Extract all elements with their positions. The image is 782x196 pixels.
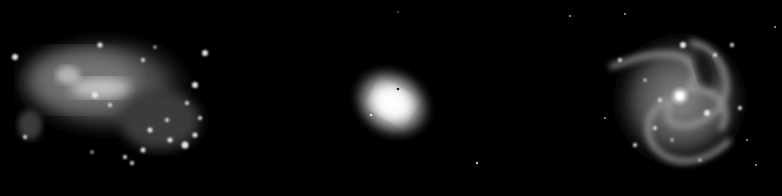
galaxy-canvas <box>0 0 782 196</box>
galaxy-image <box>0 0 782 196</box>
irregular-galaxy <box>10 30 208 165</box>
elliptical-galaxy <box>335 11 479 164</box>
spiral-galaxy <box>569 13 776 172</box>
